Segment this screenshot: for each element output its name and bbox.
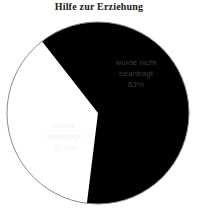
- slice-label-applied-line2: beantragt: [33, 131, 95, 142]
- slice-label-applied: wurde beantragt 37,1%: [33, 120, 95, 153]
- slice-value-not-applied: 63%: [104, 79, 168, 90]
- slice-label-not-applied: wurde nicht beantragt 63%: [104, 57, 168, 90]
- slice-value-applied: 37,1%: [33, 142, 95, 153]
- pie-chart-graphic: [0, 0, 198, 213]
- pie-chart-figure: Hilfe zur Erziehung wurde nicht beantrag…: [0, 0, 198, 213]
- slice-label-not-applied-line2: beantragt: [104, 68, 168, 79]
- slice-label-applied-line1: wurde: [33, 120, 95, 131]
- slice-label-not-applied-line1: wurde nicht: [104, 57, 168, 68]
